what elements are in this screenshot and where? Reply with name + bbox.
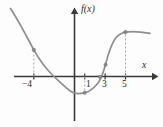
dashed-guide-lines: [34, 32, 126, 93]
tick-label-neg4: −4: [22, 80, 32, 90]
y-axis-label: f(x): [81, 4, 95, 14]
point-marker-x-neg4: [32, 48, 36, 52]
graph-canvas: [0, 0, 163, 127]
tick-label-1: 1: [86, 80, 91, 90]
point-marker-rise-upper: [104, 63, 107, 66]
x-axis-arrowhead: [152, 73, 159, 80]
y-axis-arrowhead: [71, 8, 78, 15]
function-graph-figure: f(x) x −4 1 3 5: [0, 0, 163, 127]
y-axis: [71, 8, 78, 122]
x-axis-label: x: [142, 60, 146, 70]
curve-point-markers: [32, 30, 127, 94]
tick-label-3: 3: [102, 80, 107, 90]
point-marker-x-1: [83, 91, 87, 95]
tick-label-5: 5: [122, 80, 127, 90]
point-marker-x-5: [124, 30, 128, 34]
